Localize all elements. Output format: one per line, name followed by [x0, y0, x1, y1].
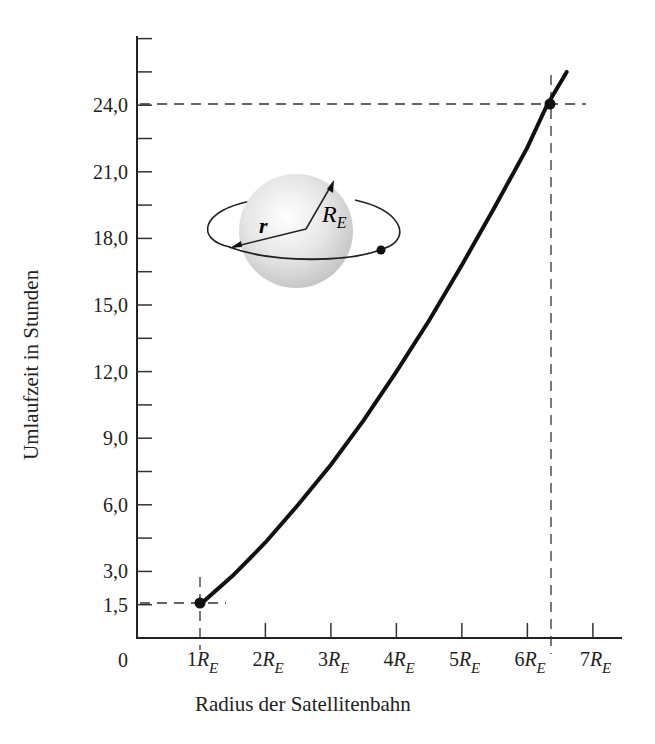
y-axis-tick-labels: 1,53,06,09,012,015,018,021,024,0 — [93, 94, 128, 616]
y-tick-label: 18,0 — [93, 227, 128, 249]
y-tick-label: 1,5 — [103, 594, 128, 616]
y-tick-label: 12,0 — [93, 361, 128, 383]
x-tick-label: 5RE — [449, 648, 480, 676]
y-axis-ticks — [137, 39, 152, 605]
x-tick-label: 2RE — [252, 648, 283, 676]
axes — [136, 36, 622, 639]
x-tick-label: 6RE — [514, 648, 545, 676]
orbit-back-right — [355, 200, 400, 246]
y-tick-label: 21,0 — [93, 161, 128, 183]
y-axis-title: Umlaufzeit in Stunden — [19, 269, 43, 460]
arrowhead-r — [230, 241, 242, 248]
x-axis-tick-labels: 1RE2RE3RE4RE5RE6RE7RE — [187, 648, 611, 676]
x-axis-title: Radius der Satellitenbahn — [195, 692, 411, 716]
x-tick-label: 7RE — [580, 648, 611, 676]
x-axis-ticks — [265, 623, 593, 638]
earth-orbit-inset: r RE — [208, 174, 400, 288]
y-tick-label: 15,0 — [93, 294, 128, 316]
radius-r-label: r — [259, 213, 268, 238]
period-curve — [200, 72, 567, 605]
x-tick-label: 1RE — [187, 648, 218, 676]
point-1re — [195, 598, 206, 609]
orbit-period-chart: r RE 1,53,06,09,012,015,018,021,024,0 1R… — [0, 0, 655, 744]
x-origin-label: 0 — [118, 649, 128, 671]
satellite-icon — [377, 246, 386, 255]
point-geostationary — [545, 99, 556, 110]
y-tick-label: 9,0 — [103, 427, 128, 449]
x-tick-label: 3RE — [318, 648, 349, 676]
y-tick-label: 3,0 — [103, 560, 128, 582]
y-tick-label: 24,0 — [93, 94, 128, 116]
x-tick-label: 4RE — [383, 648, 414, 676]
y-tick-label: 6,0 — [103, 494, 128, 516]
